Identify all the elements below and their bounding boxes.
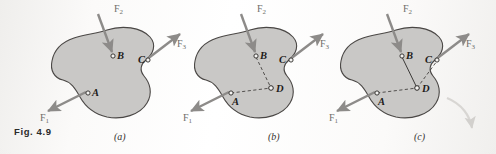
point-marker-a-b <box>229 91 233 95</box>
rigid-body-shape-b <box>194 27 296 117</box>
panel-label-b: (b) <box>268 131 280 142</box>
force-label-f1-c-sub: 1 <box>335 117 339 125</box>
point-label-b-c: B <box>406 50 413 61</box>
force-arrow-f1-b <box>191 92 229 111</box>
panel-b-group <box>191 14 323 118</box>
force-label-f2-c-sub: 2 <box>409 8 413 16</box>
force-label-f1-b-base: F <box>183 112 189 123</box>
panel-label-a: (a) <box>114 131 126 142</box>
point-label-c-a: C <box>138 54 145 65</box>
rigid-body-shape-a <box>51 27 153 117</box>
point-marker-c-b <box>289 58 293 62</box>
force-label-f2-a-base: F <box>114 3 120 14</box>
force-label-f2-b-sub: 2 <box>263 8 267 16</box>
figure-4-9: Fig. 4.9 (a) (b) (c) F2 F3 F1 A B C F2 F… <box>0 0 496 154</box>
point-label-a-b: A <box>232 96 239 107</box>
point-label-c-c: C <box>425 54 432 65</box>
point-label-a-a: A <box>92 87 99 98</box>
force-label-f3-a-base: F <box>177 38 183 49</box>
point-marker-a-c <box>375 91 379 95</box>
force-label-f1-a-base: F <box>40 112 46 123</box>
point-marker-b-a <box>111 54 115 58</box>
force-label-f1-c-base: F <box>329 112 335 123</box>
point-marker-d-c <box>415 86 420 91</box>
force-label-f2-b: F2 <box>257 3 266 14</box>
moment-arc-arrow-c <box>447 98 472 128</box>
force-label-f3-b: F3 <box>320 38 329 49</box>
force-label-f2-c: F2 <box>403 3 412 14</box>
force-label-f1-a: F1 <box>40 112 49 123</box>
force-label-f1-c: F1 <box>329 112 338 123</box>
figure-caption: Fig. 4.9 <box>14 126 52 137</box>
force-arrow-f1-c <box>337 92 375 111</box>
force-label-f1-b: F1 <box>183 112 192 123</box>
force-label-f2-a-sub: 2 <box>120 8 124 16</box>
force-arrow-f1-a <box>48 92 86 111</box>
rigid-body-shape-c <box>340 27 442 117</box>
force-label-f3-a: F3 <box>177 38 186 49</box>
point-label-c-b: C <box>279 54 286 65</box>
force-label-f1-b-sub: 1 <box>189 117 193 125</box>
force-label-f3-b-base: F <box>320 38 326 49</box>
force-label-f3-a-sub: 3 <box>183 43 187 51</box>
panel-label-c: (c) <box>414 131 425 142</box>
point-marker-c-a <box>146 58 150 62</box>
point-label-d-c: D <box>422 83 430 94</box>
panel-c-group <box>337 14 472 128</box>
force-label-f2-c-base: F <box>403 3 409 14</box>
point-marker-b-b <box>254 54 258 58</box>
force-label-f3-c-base: F <box>466 38 472 49</box>
force-label-f1-a-sub: 1 <box>46 117 50 125</box>
panel-a-group <box>48 14 180 118</box>
point-marker-b-c <box>400 54 404 58</box>
point-marker-d-b <box>269 86 274 91</box>
point-label-a-c: A <box>378 96 385 107</box>
force-label-f2-b-base: F <box>257 3 263 14</box>
point-marker-a-a <box>86 91 90 95</box>
force-label-f3-b-sub: 3 <box>326 43 330 51</box>
point-marker-c-c <box>435 58 439 62</box>
force-label-f3-c-sub: 3 <box>472 43 476 51</box>
force-label-f2-a: F2 <box>114 3 123 14</box>
point-label-b-a: B <box>117 50 124 61</box>
force-label-f3-c: F3 <box>466 38 475 49</box>
point-label-b-b: B <box>260 50 267 61</box>
point-label-d-b: D <box>276 83 284 94</box>
